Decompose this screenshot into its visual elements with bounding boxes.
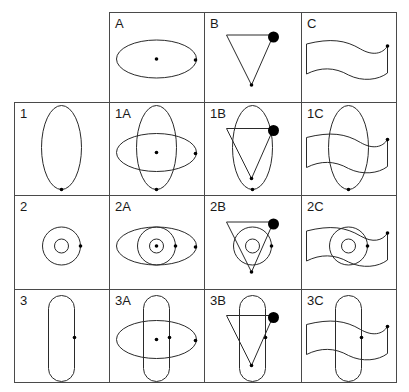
cell-border <box>15 290 110 383</box>
point-dot <box>194 58 198 62</box>
grid-cell-3A: 3A <box>110 290 205 383</box>
inner-circle <box>342 239 356 253</box>
grid-cell-1B: 1B <box>205 103 302 196</box>
point-dot <box>386 44 390 48</box>
shape-horizontal-ellipse <box>117 40 198 78</box>
wavy-flag-outline <box>307 41 388 80</box>
point-dot <box>360 336 364 340</box>
large-dot <box>268 312 279 323</box>
grid-cell-2C: 2C <box>302 196 397 290</box>
grid-cell-3C: 3C <box>302 290 397 383</box>
point-dot <box>366 244 370 248</box>
point-dot <box>386 138 390 142</box>
cell-label: C <box>307 16 316 31</box>
grid-cell-1C: 1C <box>302 103 397 196</box>
point-dot <box>194 339 198 343</box>
inner-circle <box>55 239 69 253</box>
cell-label: 3C <box>307 293 324 308</box>
triangle-outline <box>227 35 274 85</box>
grid-cell-B: B <box>205 13 302 103</box>
vertical-ellipse-outline <box>42 106 82 190</box>
grid-cell-2B: 2B <box>205 196 302 290</box>
point-dot <box>174 244 178 248</box>
cell-label: 1 <box>20 106 27 121</box>
point-dot <box>60 188 64 192</box>
grid-cell-C: C <box>302 13 397 103</box>
combination-grid-diagram: ABC11A1B1C22A2B2C33A3B3C <box>0 0 409 392</box>
shape-vertical-ellipse <box>42 106 82 192</box>
grid-cell-A: A <box>110 13 205 103</box>
large-dot <box>268 219 279 230</box>
shape-wavy-flag <box>307 41 390 80</box>
point-dot <box>347 188 351 192</box>
outer-circle <box>234 227 272 265</box>
point-dot <box>386 231 390 235</box>
wavy-flag-outline <box>307 228 388 267</box>
shape-vertical-ellipse <box>137 106 177 192</box>
grid-cell-2A: 2A <box>110 196 205 290</box>
point-dot <box>155 188 159 192</box>
cell-label: A <box>115 16 124 31</box>
cell-label: B <box>210 16 219 31</box>
shape-inverted-triangle <box>227 32 280 87</box>
point-dot <box>194 245 198 249</box>
shape-vertical-stadium <box>336 296 364 382</box>
point-dot <box>251 188 255 192</box>
grid-cells: ABC11A1B1C22A2B2C33A3B3C <box>15 13 397 383</box>
shape-inverted-triangle <box>227 125 280 180</box>
point-dot <box>155 151 159 155</box>
cell-label: 3B <box>210 293 226 308</box>
stadium-outline <box>49 296 75 382</box>
point-dot <box>155 57 159 61</box>
point-dot <box>386 325 390 329</box>
shape-wavy-flag <box>307 134 390 173</box>
point-dot <box>155 338 159 342</box>
shape-inverted-triangle <box>227 312 280 367</box>
point-dot <box>250 177 254 181</box>
point-dot <box>250 270 254 274</box>
vertical-ellipse-outline <box>137 106 177 190</box>
shape-wavy-flag <box>307 228 390 267</box>
cell-label: 1A <box>115 106 131 121</box>
triangle-outline <box>227 316 274 366</box>
cell-border <box>205 13 302 103</box>
shape-vertical-ellipse <box>329 106 369 192</box>
vertical-ellipse-outline <box>329 106 369 190</box>
large-dot <box>268 125 279 136</box>
cell-border <box>15 103 110 196</box>
grid-cell-1A: 1A <box>110 103 205 196</box>
large-dot <box>268 32 279 43</box>
cell-label: 3 <box>20 293 27 308</box>
stadium-outline <box>336 296 362 382</box>
cell-border <box>15 196 110 290</box>
outer-circle <box>330 227 368 265</box>
grid-cell-2: 2 <box>15 196 110 290</box>
point-dot <box>168 336 172 340</box>
point-dot <box>270 244 274 248</box>
cell-label: 3A <box>115 293 131 308</box>
grid-cell-3B: 3B <box>205 290 302 383</box>
shape-vertical-stadium <box>49 296 77 382</box>
point-dot <box>250 83 254 87</box>
cell-label: 2A <box>115 199 131 214</box>
wavy-flag-outline <box>307 321 388 360</box>
shape-wavy-flag <box>307 321 390 360</box>
inner-circle <box>246 239 260 253</box>
point-dot <box>155 244 159 248</box>
cell-label: 2B <box>210 199 226 214</box>
shape-horizontal-ellipse <box>117 134 198 172</box>
point-dot <box>250 364 254 368</box>
point-dot <box>194 152 198 156</box>
cell-label: 1B <box>210 106 226 121</box>
shape-horizontal-ellipse <box>117 321 198 359</box>
grid-cell-1: 1 <box>15 103 110 196</box>
shape-concentric-circles <box>43 227 83 265</box>
cell-label: 1C <box>307 106 324 121</box>
outer-circle <box>43 227 81 265</box>
cell-label: 2 <box>20 199 27 214</box>
shape-concentric-circles <box>330 227 370 265</box>
shape-concentric-circles <box>234 227 274 265</box>
wavy-flag-outline <box>307 134 388 173</box>
cell-label: 2C <box>307 199 324 214</box>
shape-horizontal-ellipse <box>117 227 198 265</box>
